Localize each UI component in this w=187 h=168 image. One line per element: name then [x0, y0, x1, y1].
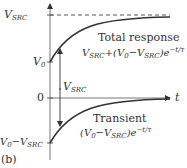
transient-title: Transient: [93, 113, 146, 124]
total-response-title: Total response: [98, 32, 179, 43]
zero-label: 0: [37, 92, 44, 103]
arrow-vsrc-label: VSRC: [63, 81, 86, 94]
total-response-formula: VSRC+(V0−VSRC)e−t/τ: [82, 47, 184, 60]
vsrc-level-label: VSRC: [4, 9, 27, 22]
transient-formula: (V0−VSRC)e−t/τ: [80, 127, 151, 140]
panel-label: (b): [1, 154, 17, 165]
v0-minus-vsrc-label: V0−VSRC: [0, 137, 43, 149]
rc-response-figure: VSRC V0 0 t V0−VSRC VSRC Total response …: [0, 0, 187, 168]
v0-level-label: V0: [33, 56, 45, 69]
t-axis-label: t: [175, 92, 179, 103]
